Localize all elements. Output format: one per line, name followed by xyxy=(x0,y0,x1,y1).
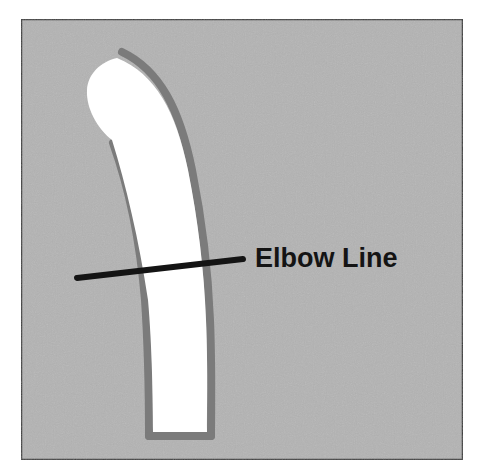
elbow-diagram: Elbow Line xyxy=(0,0,483,474)
elbow-line-label: Elbow Line xyxy=(255,243,398,273)
